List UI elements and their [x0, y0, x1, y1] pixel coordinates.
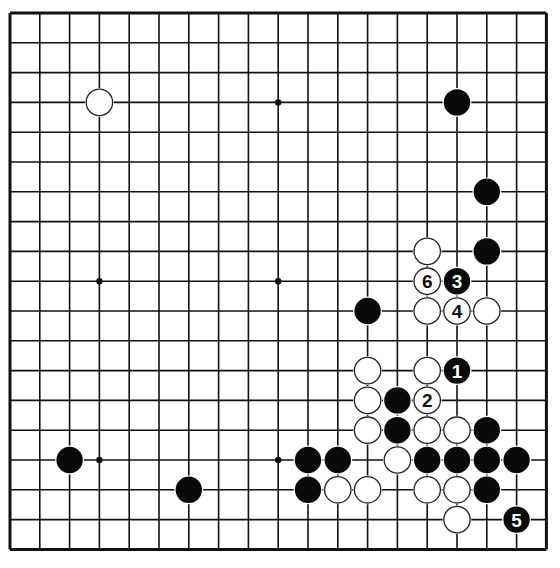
white-stone [443, 505, 472, 534]
black-stone-disc [384, 387, 410, 413]
white-stone-disc [354, 357, 380, 383]
white-stone [85, 88, 114, 117]
black-stone [472, 446, 501, 475]
black-stone-disc [176, 477, 202, 503]
black-stone [472, 237, 501, 266]
black-stone-disc [474, 447, 500, 473]
black-stone [294, 446, 323, 475]
black-stone-disc [354, 298, 380, 324]
white-stone-disc [384, 447, 410, 473]
white-stone-disc [414, 357, 440, 383]
black-stone-disc [444, 89, 470, 115]
white-stone-move-6: 6 [413, 267, 442, 296]
move-number-label: 5 [511, 510, 522, 531]
white-stone [323, 475, 352, 504]
white-stone [353, 416, 382, 445]
white-stone [383, 446, 412, 475]
black-stone [294, 475, 323, 504]
star-point [275, 457, 281, 463]
black-stone [472, 416, 501, 445]
white-stone [443, 416, 472, 445]
go-board-diagram: 634125 [0, 0, 560, 568]
black-stone [174, 475, 203, 504]
white-stone [472, 297, 501, 326]
black-stone-disc [474, 477, 500, 503]
white-stone-move-4: 4 [443, 297, 472, 326]
star-point [275, 99, 281, 105]
black-stone-disc [56, 447, 82, 473]
white-stone-disc [354, 477, 380, 503]
black-stone-disc [414, 447, 440, 473]
black-stone [443, 88, 472, 117]
move-number-label: 1 [452, 361, 463, 382]
white-stone [413, 356, 442, 385]
white-stone-disc [474, 298, 500, 324]
black-stone [383, 416, 412, 445]
black-stone [55, 446, 84, 475]
black-stone [472, 475, 501, 504]
black-stone [383, 386, 412, 415]
white-stone [413, 237, 442, 266]
star-point [96, 278, 102, 284]
white-stone-disc [414, 298, 440, 324]
white-stone [353, 475, 382, 504]
move-number-label: 4 [452, 301, 463, 322]
black-stone-disc [474, 238, 500, 264]
black-stone [443, 446, 472, 475]
black-stone-disc [474, 179, 500, 205]
black-stone-disc [474, 417, 500, 443]
black-stone-move-1: 1 [443, 356, 472, 385]
black-stone-disc [384, 417, 410, 443]
black-stone [413, 446, 442, 475]
white-stone-disc [444, 506, 470, 532]
white-stone [353, 386, 382, 415]
black-stone-disc [325, 447, 351, 473]
white-stone-disc [414, 477, 440, 503]
white-stone-disc [444, 417, 470, 443]
white-stone-disc [414, 417, 440, 443]
black-stone [502, 446, 531, 475]
black-stone [472, 177, 501, 206]
black-stone-move-3: 3 [443, 267, 472, 296]
white-stone-disc [414, 238, 440, 264]
black-stone-disc [444, 447, 470, 473]
black-stone-disc [295, 447, 321, 473]
move-number-label: 2 [422, 390, 433, 411]
white-stone [353, 356, 382, 385]
black-stone [353, 297, 382, 326]
white-stone [413, 416, 442, 445]
star-point [275, 278, 281, 284]
white-stone-disc [86, 89, 112, 115]
move-number-label: 6 [422, 271, 433, 292]
white-stone [413, 475, 442, 504]
black-stone-disc [295, 477, 321, 503]
white-stone-disc [354, 387, 380, 413]
black-stone [323, 446, 352, 475]
white-stone-move-2: 2 [413, 386, 442, 415]
move-number-label: 3 [452, 271, 463, 292]
white-stone [443, 475, 472, 504]
white-stone-disc [325, 477, 351, 503]
black-stone-move-5: 5 [502, 505, 531, 534]
white-stone-disc [354, 417, 380, 443]
star-point [96, 457, 102, 463]
white-stone [413, 297, 442, 326]
black-stone-disc [503, 447, 529, 473]
white-stone-disc [444, 477, 470, 503]
